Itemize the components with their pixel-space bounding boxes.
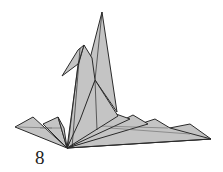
step-number: 8: [35, 148, 45, 167]
origami-crane-diagram: [0, 0, 223, 172]
left-wing: [15, 117, 67, 148]
